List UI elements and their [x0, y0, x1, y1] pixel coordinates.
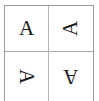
letter-rotation-grid: A A A A — [4, 5, 94, 101]
letter-glyph-bottom-right: A — [63, 66, 78, 87]
letter-glyph-bottom-left: A — [16, 69, 37, 84]
grid-cell-top-left: A — [5, 6, 49, 52]
grid-cell-bottom-right: A — [49, 52, 93, 101]
letter-glyph-top-right: A — [60, 21, 81, 36]
letter-glyph-top-left: A — [19, 18, 34, 39]
grid-cell-top-right: A — [49, 6, 93, 52]
grid-cell-bottom-left: A — [5, 52, 49, 101]
